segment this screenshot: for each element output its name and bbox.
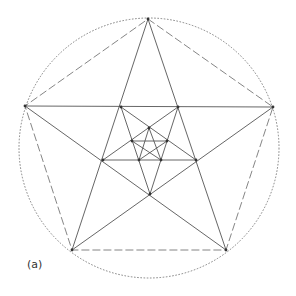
outer-pentagon — [25, 19, 273, 250]
vertex-dot — [120, 106, 123, 109]
vertex-dot — [148, 127, 151, 130]
vertex-dot — [138, 159, 141, 162]
vertex-dot — [225, 249, 228, 252]
figure-label: (a) — [27, 258, 42, 271]
vertex-dot — [71, 249, 74, 252]
vertex-dot — [149, 193, 152, 196]
vertex-dot — [131, 140, 134, 143]
vertex-dot — [272, 106, 275, 109]
vertex-dot — [166, 140, 169, 143]
vertex-dot — [177, 106, 180, 109]
vertex-dot — [147, 18, 150, 21]
vertex-dot — [195, 159, 198, 162]
vertex-dot — [24, 105, 27, 108]
vertex-dot — [160, 159, 163, 162]
vertex-dot — [102, 159, 105, 162]
outer-pentagram — [25, 19, 273, 250]
circumcircle — [19, 18, 279, 278]
nested-pentagram-diagram — [0, 0, 296, 296]
